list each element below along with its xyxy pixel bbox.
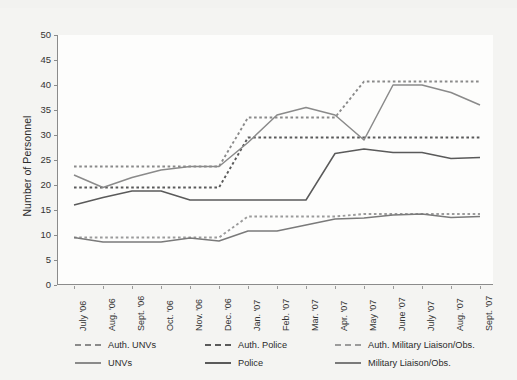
x-axis-tick-mark: [306, 286, 307, 289]
x-axis-tick-mark: [132, 286, 133, 289]
legend-item[interactable]: Military Liaison/Obs.: [335, 358, 451, 368]
y-axis-tick-label: 20: [25, 180, 51, 190]
legend-swatch-solid-line-icon: [335, 359, 361, 368]
legend-label: Police: [238, 358, 263, 368]
y-axis-tick-label: 10: [25, 230, 51, 240]
y-axis-tick-label: 25: [25, 155, 51, 165]
x-axis-tick-label: Dec. '06: [223, 298, 233, 331]
x-axis-tick-mark: [74, 286, 75, 289]
y-axis-tick-label: 35: [25, 105, 51, 115]
x-axis-tick-label: Jan. '07: [252, 300, 262, 331]
y-axis-tick-label: 40: [25, 80, 51, 90]
chart-page: Number of Personnel 05101520253035404550…: [0, 0, 517, 380]
y-axis-tick-label: 45: [25, 55, 51, 65]
x-axis-tick-mark: [219, 286, 220, 289]
y-axis-tick-label: 30: [25, 130, 51, 140]
legend-item[interactable]: Auth. Military Liaison/Obs.: [335, 340, 475, 350]
x-axis-tick-label: Nov. '06: [194, 299, 204, 331]
legend-item[interactable]: UNVs: [75, 358, 132, 368]
series-lines: [57, 35, 494, 286]
series-line: [74, 85, 480, 188]
x-axis-tick-label: Aug. '07: [455, 298, 465, 331]
x-axis-tick-label: Sept. '06: [136, 296, 146, 331]
x-axis-tick-mark: [393, 286, 394, 289]
x-axis-tick-mark: [364, 286, 365, 289]
legend-item[interactable]: Auth. Police: [205, 340, 287, 350]
x-axis-tick-label: June '07: [397, 297, 407, 331]
legend-swatch-solid-line-icon: [75, 359, 101, 368]
x-axis-tick-label: Mar. '07: [310, 299, 320, 331]
y-axis-tick-label: 15: [25, 205, 51, 215]
series-line: [74, 214, 480, 242]
legend-label: Auth. UNVs: [108, 340, 156, 350]
series-line: [74, 138, 480, 188]
series-line: [74, 214, 480, 238]
legend-swatch-dashed-line-icon: [75, 341, 101, 350]
x-axis-tick-mark: [103, 286, 104, 289]
legend-swatch-solid-line-icon: [205, 359, 231, 368]
y-axis-tick-label: 0: [25, 280, 51, 290]
legend-label: Auth. Police: [238, 340, 287, 350]
x-axis-tick-mark: [335, 286, 336, 289]
series-line: [74, 82, 480, 167]
y-axis-tick-label: 5: [25, 255, 51, 265]
legend-swatch-dashed-line-icon: [335, 341, 361, 350]
chart-panel: Number of Personnel 05101520253035404550…: [0, 8, 517, 380]
legend-swatch-dashed-line-icon: [205, 341, 231, 350]
x-axis-tick-label: Sept. '07: [484, 296, 494, 331]
y-axis-tick-label: 50: [25, 30, 51, 40]
x-axis-tick-label: Oct. '06: [165, 300, 175, 331]
chart-legend: Auth. UNVsAuth. PoliceAuth. Military Lia…: [57, 340, 497, 380]
x-axis-tick-label: Feb. '07: [281, 299, 291, 331]
x-axis-tick-label: Apr. '07: [339, 301, 349, 331]
x-axis-tick-mark: [248, 286, 249, 289]
legend-label: UNVs: [108, 358, 132, 368]
legend-label: Military Liaison/Obs.: [368, 358, 451, 368]
x-axis-tick-mark: [422, 286, 423, 289]
legend-label: Auth. Military Liaison/Obs.: [368, 340, 475, 350]
plot-area: [57, 35, 493, 285]
x-axis-tick-mark: [190, 286, 191, 289]
x-axis-tick-mark: [451, 286, 452, 289]
x-axis-tick-mark: [161, 286, 162, 289]
legend-item[interactable]: Auth. UNVs: [75, 340, 156, 350]
x-axis-tick-label: Aug. '06: [107, 298, 117, 331]
x-axis-tick-mark: [480, 286, 481, 289]
legend-item[interactable]: Police: [205, 358, 263, 368]
x-axis-tick-label: July '07: [426, 301, 436, 331]
x-axis-tick-mark: [277, 286, 278, 289]
x-axis-tick-label: May '07: [368, 300, 378, 331]
x-axis-tick-label: July '06: [78, 301, 88, 331]
